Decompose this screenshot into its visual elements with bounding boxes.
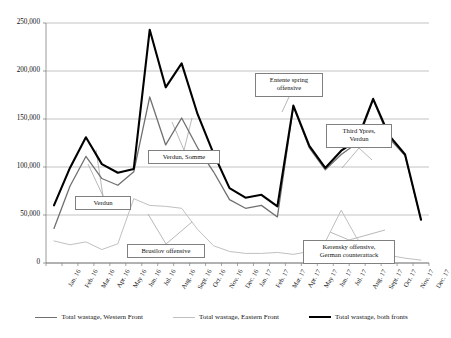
y-tick-label: 50,000: [0, 210, 40, 218]
annotation-brusilov: Brusilov offensive: [127, 244, 205, 258]
annotation-line: offensive: [260, 84, 318, 92]
annotation-entente-spring: Entente springoffensive: [255, 73, 323, 97]
annotation-kerensky: Kerensky offensive,German counterattack: [303, 240, 395, 264]
legend-swatch-icon: [309, 316, 331, 318]
legend-label: Total wastage, both fronts: [335, 313, 408, 321]
y-tick-label: 200,000: [0, 66, 40, 74]
y-tick-label: 150,000: [0, 114, 40, 122]
annotation-line: Verdun, Somme: [153, 153, 215, 161]
legend-item-0[interactable]: Total wastage, Western Front: [35, 313, 143, 321]
legend-swatch-icon: [35, 317, 57, 318]
annotation-leader-line: [148, 214, 166, 244]
annotation-leader-line: [359, 148, 372, 160]
annotation-line: German counterattack: [308, 251, 390, 259]
legend-swatch-icon: [173, 317, 195, 318]
annotation-line: Verdun: [331, 135, 387, 143]
annotation-line: Third Ypres,: [331, 127, 387, 135]
y-tick-label: 100,000: [0, 162, 40, 170]
annotation-leader-line: [166, 222, 192, 244]
legend-item-1[interactable]: Total wastage, Eastern Front: [173, 313, 279, 321]
annotation-line: Entente spring: [260, 76, 318, 84]
annotation-leader-line: [330, 232, 349, 240]
y-tick-label: 0: [0, 258, 40, 266]
annotation-leader-line: [342, 148, 359, 168]
legend-label: Total wastage, Western Front: [61, 313, 143, 321]
annotation-verdun-somme: Verdun, Somme: [148, 150, 220, 164]
annotation-third-ypres: Third Ypres,Verdun: [326, 124, 392, 148]
annotation-verdun: Verdun: [75, 196, 131, 210]
chart-legend: Total wastage, Western FrontTotal wastag…: [0, 309, 443, 325]
annotation-line: Verdun: [80, 199, 126, 207]
annotation-leader-line: [172, 122, 184, 150]
annotation-line: Kerensky offensive,: [308, 243, 390, 251]
annotation-line: Brusilov offensive: [132, 247, 200, 255]
y-tick-label: 250,000: [0, 18, 40, 26]
legend-label: Total wastage, Eastern Front: [199, 313, 279, 321]
legend-item-2[interactable]: Total wastage, both fronts: [309, 313, 408, 321]
annotation-leader-line: [282, 97, 289, 112]
